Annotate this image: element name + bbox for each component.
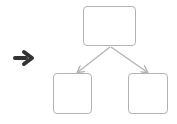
tree-diagram xyxy=(0,0,177,124)
edge-root-to-left-child xyxy=(78,47,110,72)
right-child-node xyxy=(128,73,168,114)
root-node xyxy=(83,6,136,46)
edge-root-to-right-child xyxy=(111,47,147,72)
left-child-node xyxy=(53,73,92,114)
